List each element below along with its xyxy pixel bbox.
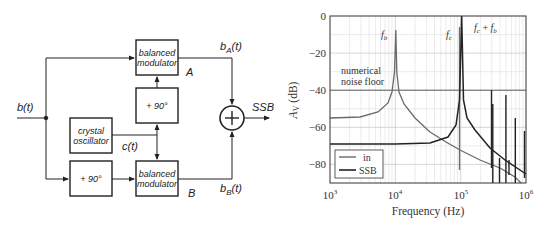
path-to-mod-a (46, 58, 134, 118)
annotation-fc: fc (446, 29, 453, 42)
mod-b-line2: modulator (137, 179, 178, 189)
mod-b-tag: B (188, 187, 195, 199)
svg-text:−20: −20 (309, 47, 327, 59)
svg-text:−60: −60 (309, 121, 327, 133)
svg-text:103: 103 (323, 188, 338, 201)
legend-ssb-label: SSB (359, 165, 377, 176)
path-to-shift-bottom (46, 118, 68, 179)
mod-a-line1: balanced (139, 48, 177, 58)
branch-a-line (178, 58, 232, 104)
y-axis-label: AV (dB) (287, 81, 301, 119)
x-axis-label: Frequency (Hz) (392, 205, 465, 218)
annotation-fc-plus-fb: fc + fb (474, 22, 497, 35)
y-tick-labels: 0 −20 −40 −60 −80 (309, 10, 327, 170)
shift-top-label: + 90° (146, 101, 168, 111)
svg-text:−80: −80 (309, 158, 327, 170)
svg-text:0: 0 (321, 10, 327, 22)
annotation-fb: fb (381, 29, 388, 42)
mod-a-tag: A (185, 66, 193, 78)
carrier-label: c(t) (122, 140, 138, 152)
svg-text:bA(t): bA(t) (220, 40, 242, 55)
legend: in SSB (335, 150, 383, 178)
svg-text:−40: −40 (309, 84, 327, 96)
svg-text:104: 104 (388, 188, 403, 201)
mod-b-line1: balanced (139, 169, 177, 179)
input-label: b(t) (17, 101, 34, 113)
chart: 0 −20 −40 −60 −80 103 104 105 106 Freque… (287, 10, 534, 218)
x-tick-labels: 103 104 105 106 (323, 188, 534, 201)
svg-text:106: 106 (519, 188, 534, 201)
annotation-noise-2: noise floor (341, 76, 385, 87)
annotation-noise-1: numerical (341, 65, 381, 76)
branch-a-label: bA(t) (220, 40, 242, 55)
svg-text:bB(t): bB(t) (220, 182, 242, 197)
crystal-line1: crystal (78, 126, 105, 136)
mod-a-line2: modulator (137, 58, 178, 68)
branch-b-label: bB(t) (220, 182, 242, 197)
svg-text:105: 105 (454, 188, 469, 201)
output-label: SSB (252, 101, 274, 113)
legend-in-label: in (363, 152, 371, 163)
figure-canvas: balanced modulator A + 90° crystal oscil… (0, 0, 550, 225)
branch-b-line (178, 132, 232, 179)
shift-bottom-label: + 90° (80, 174, 102, 184)
crystal-line2: oscillator (73, 136, 110, 146)
